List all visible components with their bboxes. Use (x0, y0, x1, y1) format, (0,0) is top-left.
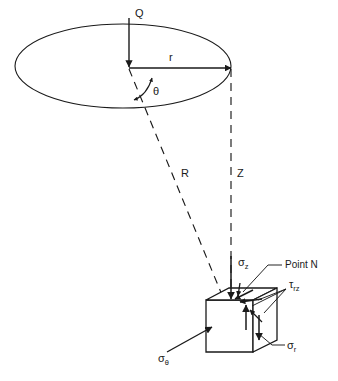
depth-label-z: Z (237, 167, 244, 179)
diagram-canvas: Q r θ R Z σz τrz (0, 0, 338, 381)
slant-label-r: R (181, 167, 189, 179)
stress-label-sigma-theta: σθ (158, 352, 169, 367)
load-label-q: Q (135, 7, 144, 19)
stress-label-sigma-z: σz (238, 256, 249, 271)
stress-diagram: Q r θ R Z σz τrz (0, 0, 338, 381)
stress-label-tau-rz: τrz (289, 278, 300, 293)
stress-label-sigma-r: σr (287, 339, 297, 354)
radius-label-r: r (169, 51, 173, 63)
angle-label-theta: θ (153, 85, 159, 97)
stress-arrow-sigma-theta (167, 327, 212, 352)
ground-surface-ellipse (15, 24, 231, 108)
point-n-label: Point N (285, 259, 318, 270)
